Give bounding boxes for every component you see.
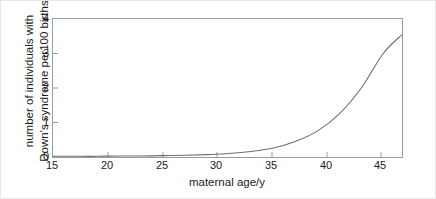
y-axis-ticks <box>53 54 58 123</box>
chart-figure: number of individuals with Down's syndro… <box>0 0 436 199</box>
y-tick-label: 4 <box>25 12 49 24</box>
x-tick-label: 35 <box>256 159 286 171</box>
x-tick-label: 15 <box>37 159 67 171</box>
x-tick-label: 20 <box>92 159 122 171</box>
plot-area <box>52 18 403 158</box>
x-tick-label: 45 <box>365 159 395 171</box>
x-axis-title: maternal age/y <box>52 176 402 188</box>
data-series-line <box>53 35 402 157</box>
x-axis-tick-labels: 15 20 25 30 35 40 45 <box>1 159 436 175</box>
x-tick-label: 25 <box>147 159 177 171</box>
y-tick-label: 3 <box>25 47 49 59</box>
x-tick-label: 40 <box>311 159 341 171</box>
y-tick-label: 2 <box>25 81 49 93</box>
plot-svg <box>53 19 402 157</box>
x-tick-label: 30 <box>201 159 231 171</box>
y-tick-label: 1 <box>25 116 49 128</box>
